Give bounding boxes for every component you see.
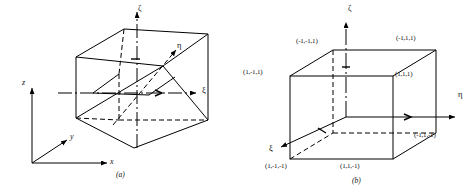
vertex-label-front-bottom-right: (1,1,-1) [340, 163, 359, 170]
wedge-zeta-axis-label: ζ [138, 4, 142, 13]
vertex-label-back-top-right: (-1,1,1) [396, 35, 415, 42]
panel-b-caption: (b) [352, 177, 361, 185]
global-z-axis-label: z [22, 79, 25, 87]
vertex-label-back-bottom-right: (-1,1,-1) [414, 132, 436, 139]
cube-xi-axis-label: ξ [269, 144, 273, 153]
cube-eta-axis-label: η [458, 90, 462, 99]
parent-cube-outline [290, 50, 436, 159]
figure-container: ζ η ξ z y x (a) ζ η ξ (-1,-1,1) (-1,1,1)… [0, 0, 471, 192]
wedge-element-outline [76, 29, 208, 148]
wedge-eta-axis-label: η [177, 41, 181, 50]
wedge-eta-axis [113, 50, 176, 125]
figure-linework [0, 0, 471, 192]
vertex-label-front-top-left: (1,-1,1) [243, 69, 262, 76]
wedge-xi-axis-label: ξ [202, 86, 206, 95]
global-x-axis-label: x [110, 158, 114, 166]
wedge-mid-band [93, 74, 175, 95]
vertex-label-back-top-left: (-1,-1,1) [296, 38, 318, 45]
cube-zeta-axis-label: ζ [348, 4, 352, 13]
parent-cube-hidden-edges [290, 50, 436, 159]
vertex-label-front-top-right: (1,1,1) [395, 71, 412, 78]
global-axis-triad [32, 88, 107, 163]
global-y-axis-label: y [70, 133, 74, 141]
vertex-label-front-bottom-left: (1,-1,-1) [265, 163, 287, 170]
panel-a-caption: (a) [116, 171, 125, 179]
cube-xi-axis [281, 117, 346, 147]
